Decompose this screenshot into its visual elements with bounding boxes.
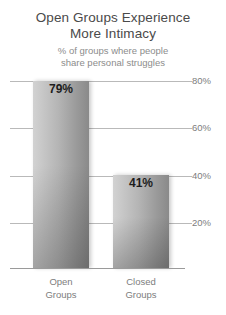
ytick-label-60: 60% bbox=[192, 123, 211, 133]
bar-chart-figure: Open Groups Experience More Intimacy % o… bbox=[0, 0, 226, 315]
x-axis-baseline bbox=[10, 268, 185, 269]
bar-value-open-groups: 79% bbox=[33, 82, 89, 96]
tick-stub-40 bbox=[183, 176, 192, 177]
ytick-label-80: 80% bbox=[192, 76, 211, 86]
category-label-closed-groups-line1: Closed bbox=[113, 276, 169, 288]
ytick-label-20: 20% bbox=[192, 218, 211, 228]
bar-open-groups[interactable] bbox=[33, 81, 89, 268]
ytick-label-40: 40% bbox=[192, 171, 211, 181]
bar-value-closed-groups: 41% bbox=[113, 176, 169, 190]
category-label-open-groups-line1: Open bbox=[33, 276, 89, 288]
category-label-open-groups-line2: Groups bbox=[33, 289, 89, 301]
category-label-closed-groups-line2: Groups bbox=[113, 289, 169, 301]
tick-stub-60 bbox=[183, 128, 192, 129]
tick-stub-20 bbox=[183, 223, 192, 224]
tick-stub-80 bbox=[183, 81, 192, 82]
plot-area: 80% 60% 40% 20% 79% 41% Open Groups Clos… bbox=[0, 0, 226, 315]
